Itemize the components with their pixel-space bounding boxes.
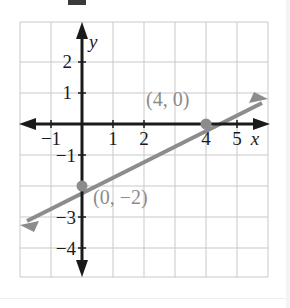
figure-background xyxy=(0,0,290,308)
y-axis-label: y xyxy=(87,31,98,52)
x-axis-label: x xyxy=(250,128,260,149)
point-label-0-minus2: (0, −2) xyxy=(93,186,148,209)
graph-svg: −1 1 2 4 5 2 1 −1 −3 −4 y x (4, 0) (0, −… xyxy=(0,0,290,308)
y-tick-label: 2 xyxy=(63,51,73,72)
point-label-4-0: (4, 0) xyxy=(146,88,189,111)
page-edge-shadow xyxy=(286,0,290,308)
x-tick-label: 4 xyxy=(201,128,211,149)
x-tick-label: 5 xyxy=(232,128,242,149)
point-marker-0-minus2 xyxy=(77,181,88,192)
x-tick-label: 1 xyxy=(108,128,118,149)
x-tick-label: 2 xyxy=(139,128,149,149)
scan-artifact xyxy=(68,0,86,5)
y-tick-label: −1 xyxy=(56,145,76,166)
y-tick-label: −4 xyxy=(56,238,77,259)
scan-edge-line xyxy=(0,298,290,299)
y-tick-label: 1 xyxy=(63,82,73,103)
coordinate-plane-figure: −1 1 2 4 5 2 1 −1 −3 −4 y x (4, 0) (0, −… xyxy=(0,0,290,308)
y-tick-label: −3 xyxy=(56,207,76,228)
